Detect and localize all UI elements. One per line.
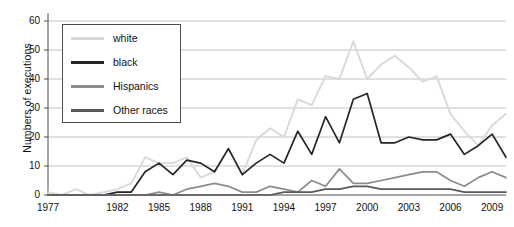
x-tick-label: 2000 [347,203,387,213]
legend-item-black[interactable]: black [63,50,182,74]
x-tick-label: 1982 [97,203,137,213]
x-tick-label: 1991 [222,203,262,213]
legend-item-label: Hispanics [113,80,159,92]
x-tick-label: 1988 [181,203,221,213]
x-tick-label: 1997 [306,203,346,213]
legend-item-label: black [113,56,138,68]
y-tick-label: 30 [14,103,40,113]
legend-swatch-icon [71,109,104,112]
legend-item-white[interactable]: white [63,26,182,50]
legend-swatch-icon [71,85,104,88]
x-tick-label: 1994 [264,203,304,213]
y-tick-label: 10 [14,161,40,171]
y-tick-label: 60 [14,16,40,26]
x-tick-label: 2006 [430,203,470,213]
legend-swatch-icon [71,37,104,40]
y-tick-label: 40 [14,74,40,84]
chart-legend: whiteblackHispanicsOther races [62,24,181,123]
series-line-hispanics [48,169,506,195]
x-tick-label: 1985 [139,203,179,213]
x-tick-label: 2009 [472,203,512,213]
legend-item-other-races[interactable]: Other races [63,98,182,122]
x-tick-label: 1977 [28,203,68,213]
x-tick-label: 2003 [389,203,429,213]
y-tick-label: 0 [14,190,40,200]
execution-line-chart: Numbers of executions whiteblackHispanic… [0,0,514,227]
legend-item-hispanics[interactable]: Hispanics [63,74,182,98]
legend-item-label: Other races [113,104,168,116]
legend-item-label: white [113,32,138,44]
y-tick-label: 50 [14,45,40,55]
y-tick-label: 20 [14,132,40,142]
legend-swatch-icon [71,61,104,64]
